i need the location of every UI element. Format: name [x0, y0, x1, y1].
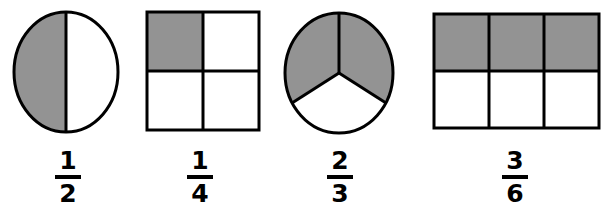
figure-two-thirds-circle: 2 3 [280, 0, 420, 208]
cell-bottom-1 [434, 71, 489, 128]
quarter-square-shape [144, 8, 264, 136]
cell-top-2-shaded [489, 14, 544, 71]
fraction-label-one-quarter: 1 4 [172, 148, 228, 206]
three-sixths-rectangle-svg [430, 10, 606, 136]
fraction-label-two-thirds: 2 3 [312, 148, 368, 206]
fraction-numerator: 1 [172, 148, 228, 175]
figure-quarter-square: 1 4 [140, 0, 280, 208]
fraction-numerator: 3 [487, 148, 543, 175]
three-sixths-rectangle-shape [430, 10, 606, 136]
fraction-label-one-half: 1 2 [40, 148, 96, 206]
fraction-denominator: 3 [312, 179, 368, 206]
quarter-square-svg [144, 8, 264, 136]
fraction-denominator: 6 [487, 179, 543, 206]
half-circle-svg [10, 8, 126, 136]
cell-bottom-3 [544, 71, 599, 128]
cell-top-3-shaded [544, 14, 599, 71]
cell-bottom-left [147, 71, 203, 130]
half-circle-shape [10, 8, 126, 136]
cell-top-right [203, 12, 259, 71]
cell-top-1-shaded [434, 14, 489, 71]
two-thirds-circle-svg [281, 8, 401, 136]
fraction-numerator: 1 [40, 148, 96, 175]
unshaded-right-half [66, 12, 118, 132]
figure-half-circle: 1 2 [0, 0, 140, 208]
fraction-figures-canvas: 1 2 1 4 [0, 0, 608, 208]
shaded-left-half [14, 12, 66, 132]
two-thirds-circle-shape [281, 8, 401, 136]
fraction-denominator: 4 [172, 179, 228, 206]
cell-top-left-shaded [147, 12, 203, 71]
figure-three-sixths-rectangle: 3 6 [420, 0, 608, 208]
cell-bottom-2 [489, 71, 544, 128]
fraction-label-three-sixths: 3 6 [487, 148, 543, 206]
fraction-numerator: 2 [312, 148, 368, 175]
fraction-denominator: 2 [40, 179, 96, 206]
cell-bottom-right [203, 71, 259, 130]
